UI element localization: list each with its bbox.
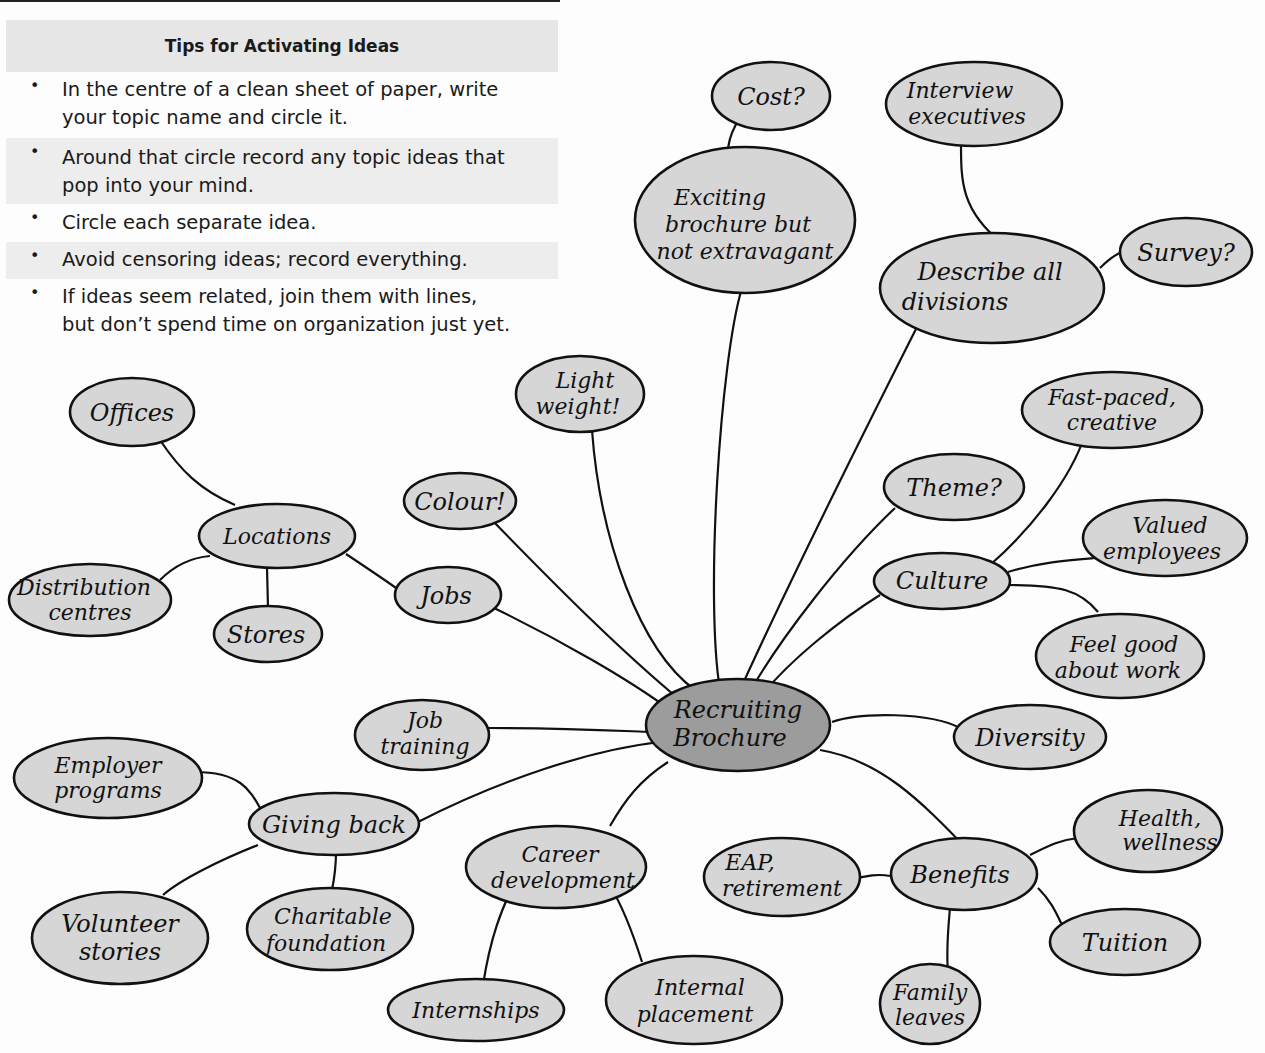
- node-job-training: Job training: [355, 700, 489, 770]
- svg-text:placement: placement: [637, 1002, 754, 1027]
- svg-text:wellness: wellness: [1122, 830, 1218, 855]
- node-volunteer-stories: Volunteer stories: [32, 892, 208, 984]
- node-exciting-brochure: Exciting brochure but not extravagant: [635, 147, 855, 293]
- svg-text:Internal: Internal: [654, 975, 745, 1000]
- svg-text:Culture: Culture: [896, 567, 988, 595]
- svg-text:weight!: weight!: [536, 394, 621, 419]
- svg-text:about work: about work: [1055, 658, 1181, 683]
- svg-text:Exciting: Exciting: [673, 185, 766, 210]
- svg-text:Describe all: Describe all: [916, 258, 1062, 286]
- node-family-leaves: Family leaves: [880, 964, 980, 1044]
- node-health-wellness: Health, wellness: [1074, 790, 1222, 872]
- node-benefits: Benefits: [891, 838, 1037, 910]
- svg-text:Locations: Locations: [222, 524, 331, 549]
- svg-text:Charitable: Charitable: [274, 904, 392, 929]
- svg-text:Feel good: Feel good: [1069, 632, 1179, 657]
- node-jobs: Jobs: [395, 567, 501, 623]
- node-internal-placement: Internal placement: [606, 956, 782, 1044]
- svg-text:Giving back: Giving back: [262, 811, 406, 839]
- svg-text:stories: stories: [79, 938, 161, 966]
- svg-text:Diversity: Diversity: [974, 724, 1085, 752]
- node-colour: Colour!: [404, 473, 516, 529]
- svg-text:EAP,: EAP,: [724, 850, 774, 875]
- svg-text:retirement: retirement: [722, 876, 842, 901]
- node-eap-retirement: EAP, retirement: [704, 838, 860, 916]
- node-survey: Survey?: [1120, 218, 1252, 286]
- svg-text:Tuition: Tuition: [1082, 929, 1168, 957]
- node-charitable-foundation: Charitable foundation: [247, 888, 413, 970]
- svg-text:executives: executives: [908, 104, 1026, 129]
- svg-text:Internships: Internships: [411, 998, 539, 1023]
- node-employer-programs: Employer programs: [14, 738, 202, 818]
- node-interview-executives: Interview executives: [886, 62, 1062, 146]
- node-offices: Offices: [70, 378, 194, 446]
- node-fast-paced-creative: Fast-paced, creative: [1022, 372, 1202, 448]
- svg-text:Volunteer: Volunteer: [61, 910, 180, 938]
- node-light-weight: Light weight!: [516, 356, 644, 432]
- svg-text:creative: creative: [1067, 410, 1157, 435]
- svg-text:Jobs: Jobs: [415, 582, 472, 610]
- svg-text:brochure but: brochure but: [665, 212, 811, 237]
- node-valued-employees: Valued employees: [1083, 500, 1247, 576]
- svg-text:not extravagant: not extravagant: [657, 239, 834, 264]
- svg-text:divisions: divisions: [902, 288, 1009, 316]
- node-feel-good-about-work: Feel good about work: [1036, 614, 1204, 698]
- page: Tips for Activating Ideas • In the centr…: [0, 0, 1265, 1053]
- mind-map: Cost? Exciting brochure but not extravag…: [0, 0, 1265, 1053]
- svg-text:Offices: Offices: [90, 399, 174, 427]
- svg-text:Stores: Stores: [227, 621, 306, 649]
- svg-text:Recruiting: Recruiting: [673, 696, 802, 724]
- node-internships: Internships: [388, 979, 564, 1041]
- svg-text:centres: centres: [48, 600, 131, 625]
- svg-text:Benefits: Benefits: [909, 861, 1009, 889]
- svg-text:Job: Job: [403, 708, 443, 733]
- svg-text:Light: Light: [555, 368, 615, 393]
- node-career-development: Career development: [466, 826, 646, 908]
- svg-text:Cost?: Cost?: [737, 83, 805, 111]
- node-theme: Theme?: [884, 454, 1024, 520]
- svg-text:programs: programs: [54, 778, 162, 803]
- node-culture: Culture: [874, 553, 1010, 609]
- node-recruiting-brochure-center: Recruiting Brochure: [646, 679, 830, 771]
- svg-text:Valued: Valued: [1132, 513, 1207, 538]
- svg-text:development: development: [491, 868, 635, 893]
- node-diversity: Diversity: [954, 705, 1106, 769]
- svg-text:Health,: Health,: [1118, 806, 1201, 831]
- svg-text:Survey?: Survey?: [1137, 239, 1235, 267]
- svg-text:training: training: [381, 734, 470, 759]
- svg-text:Interview: Interview: [906, 78, 1014, 103]
- svg-text:employees: employees: [1103, 539, 1221, 564]
- node-locations: Locations: [199, 504, 355, 568]
- svg-text:Colour!: Colour!: [414, 488, 506, 516]
- svg-text:Theme?: Theme?: [906, 474, 1002, 502]
- svg-text:foundation: foundation: [264, 931, 386, 956]
- node-distribution-centres: Distribution centres: [9, 564, 171, 636]
- node-cost: Cost?: [712, 62, 830, 130]
- svg-text:Fast-paced,: Fast-paced,: [1047, 385, 1176, 410]
- node-giving-back: Giving back: [249, 793, 419, 855]
- svg-text:leaves: leaves: [895, 1005, 965, 1030]
- svg-text:Distribution: Distribution: [16, 575, 151, 600]
- svg-text:Brochure: Brochure: [672, 724, 787, 752]
- node-stores: Stores: [214, 606, 322, 662]
- svg-text:Employer: Employer: [53, 753, 163, 778]
- svg-text:Career: Career: [521, 842, 600, 867]
- node-describe-all-divisions: Describe all divisions: [880, 233, 1104, 343]
- svg-text:Family: Family: [892, 980, 968, 1005]
- node-tuition: Tuition: [1050, 909, 1200, 975]
